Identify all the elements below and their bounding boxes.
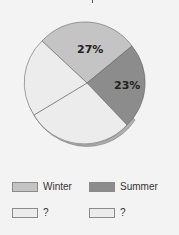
legend-item-summer: Summer [89, 181, 166, 192]
legend-label: ? [43, 207, 49, 218]
summer-percent-label: 23% [114, 79, 140, 92]
legend-row-1: Winter Summer [12, 181, 166, 192]
legend-row-2: ? ? [12, 207, 166, 218]
summer-swatch [89, 182, 115, 192]
pie-chart: 27% 23% [0, 0, 179, 170]
unknown-swatch [89, 208, 115, 218]
legend-item-winter: Winter [12, 181, 89, 192]
legend-item-unknown-2: ? [89, 207, 166, 218]
legend-label: Winter [43, 181, 72, 192]
legend-label: ? [120, 207, 126, 218]
winter-swatch [12, 182, 38, 192]
winter-percent-label: 27% [77, 43, 103, 56]
legend-label: Summer [120, 181, 158, 192]
unknown-swatch [12, 208, 38, 218]
legend-item-unknown-1: ? [12, 207, 89, 218]
